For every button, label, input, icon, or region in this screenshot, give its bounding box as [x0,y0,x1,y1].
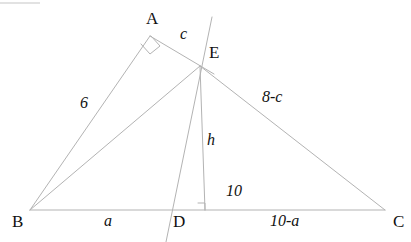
right-angle-square-at-foot [198,203,205,210]
segment-label-10-a: 10-a [270,213,299,229]
vertex-label-d: D [173,213,185,230]
geometry-diagram: A E B D C c 6 8-c h 10 a 10-a [0,0,411,242]
segment-label-c: c [180,26,187,42]
segment-label-6: 6 [80,95,88,111]
segment-label-8-c: 8-c [262,89,282,105]
vertex-label-c: C [393,213,404,230]
vertex-label-a: A [146,10,158,27]
diagram-canvas [0,0,411,242]
segment-label-h: h [207,132,215,148]
segment-altitude-h [200,66,205,210]
segment-label-a: a [104,213,112,229]
vertex-label-e: E [209,44,219,61]
segment-label-10: 10 [226,183,242,199]
vertex-label-b: B [12,213,23,230]
